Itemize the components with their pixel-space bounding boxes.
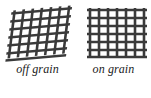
- weave-off-grain-svg: [6, 4, 70, 60]
- warp-thread: [45, 7, 51, 55]
- caption-on-grain: on grain: [76, 62, 151, 77]
- caption-off-grain: off grain: [0, 62, 75, 77]
- weave-on-grain-svg: [82, 4, 146, 60]
- fabric-grain-figure: off grain: [0, 0, 151, 98]
- warp-thread: [54, 6, 60, 54]
- weave-off-grain: [6, 4, 70, 60]
- warp-thread: [27, 9, 33, 57]
- swatch-on-grain: on grain: [76, 0, 151, 98]
- weft-thread: [5, 55, 66, 60]
- swatch-off-grain: off grain: [0, 0, 75, 98]
- warp-thread: [18, 9, 24, 57]
- weave-on-grain: [82, 4, 146, 60]
- weave-off-grain-threads: [5, 5, 72, 60]
- weave-on-grain-threads: [87, 8, 147, 57]
- warp-thread: [63, 6, 69, 54]
- warp-thread: [36, 8, 42, 56]
- warp-thread: [9, 10, 15, 58]
